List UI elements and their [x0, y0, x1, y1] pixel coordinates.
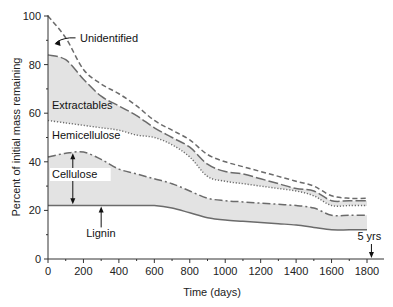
x-tick-label: 600 — [145, 265, 163, 277]
y-tick-label: 100 — [23, 10, 41, 22]
x-tick-label: 1800 — [355, 265, 379, 277]
y-tick-label: 0 — [35, 253, 41, 265]
y-tick-label: 80 — [29, 59, 41, 71]
y-tick-label: 60 — [29, 107, 41, 119]
label-5-yrs: 5 yrs — [357, 230, 381, 242]
x-tick-label: 800 — [181, 265, 199, 277]
x-tick-label: 0 — [45, 265, 51, 277]
label-extractables: Extractables — [52, 99, 113, 111]
label-lignin: Lignin — [86, 227, 115, 239]
x-axis-title: Time (days) — [183, 286, 241, 298]
axes: 0204060801000200400600800100012001400160… — [23, 10, 384, 277]
decomposition-chart: 0204060801000200400600800100012001400160… — [0, 0, 393, 307]
x-tick-label: 400 — [110, 265, 128, 277]
x-tick-label: 200 — [74, 265, 92, 277]
y-tick-label: 20 — [29, 204, 41, 216]
x-tick-label: 1000 — [213, 265, 237, 277]
x-tick-label: 1200 — [248, 265, 272, 277]
y-tick-label: 40 — [29, 156, 41, 168]
label-hemicellulose: Hemicellulose — [52, 129, 120, 141]
label-cellulose: Cellulose — [52, 168, 97, 180]
label-unidentified: Unidentified — [80, 32, 138, 44]
y-axis-title: Percent of initial mass remaining — [10, 58, 22, 217]
x-tick-label: 1400 — [284, 265, 308, 277]
x-tick-label: 1600 — [319, 265, 343, 277]
